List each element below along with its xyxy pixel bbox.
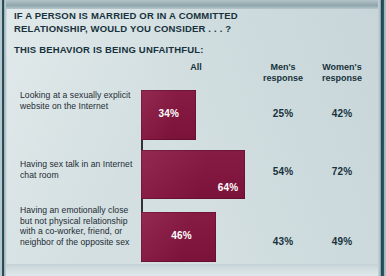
bar-all: 46% (141, 212, 216, 262)
subtitle: THIS BEHAVIOR IS BEING UNFAITHFUL: (14, 44, 204, 55)
page-title: IF A PERSON IS MARRIED OR IN A COMMITTED… (14, 10, 344, 35)
title-line-1: IF A PERSON IS MARRIED OR IN A COMMITTED (14, 10, 344, 23)
column-header-women: Women's response (311, 62, 373, 83)
bar-all: 64% (141, 150, 245, 199)
column-header-women-line1: Women's (311, 62, 373, 73)
bar-value-all: 34% (158, 108, 179, 119)
value-women: 49% (312, 236, 372, 247)
table-row: Having sex talk in an Internet chat room… (0, 150, 371, 200)
row-label: Looking at a sexually explicit website o… (20, 90, 136, 111)
infographic-panel: IF A PERSON IS MARRIED OR IN A COMMITTED… (0, 0, 386, 276)
frame-right-border (378, 0, 386, 276)
value-men: 43% (253, 236, 313, 247)
value-women: 72% (312, 166, 372, 177)
bar-value-all: 46% (171, 230, 192, 241)
bar-all: 34% (141, 90, 196, 140)
frame-top-border (0, 0, 386, 9)
column-header-men-line1: Men's (253, 62, 313, 73)
table-row: Having an emotionally close but not phys… (0, 204, 371, 264)
frame-left-border (0, 0, 6, 276)
value-women: 42% (312, 108, 372, 119)
column-header-men: Men's response (253, 62, 313, 83)
title-line-2: RELATIONSHIP, WOULD YOU CONSIDER . . . ? (14, 23, 344, 36)
table-row: Looking at a sexually explicit website o… (0, 82, 371, 140)
frame-bottom-border (0, 264, 386, 276)
bar-value-all: 64% (218, 182, 239, 193)
column-header-all: All (166, 62, 226, 73)
row-label: Having an emotionally close but not phys… (20, 205, 136, 247)
value-men: 25% (253, 108, 313, 119)
column-header-all-label: All (166, 62, 226, 73)
value-men: 54% (253, 166, 313, 177)
row-label: Having sex talk in an Internet chat room (20, 159, 136, 180)
